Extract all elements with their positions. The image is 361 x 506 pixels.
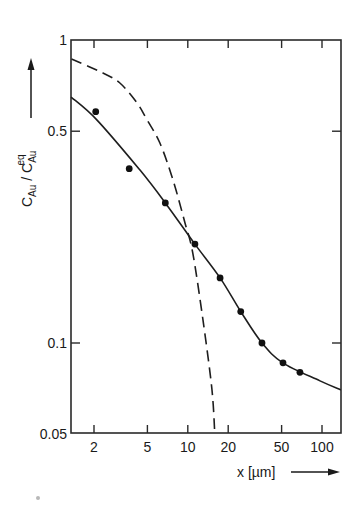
data-point xyxy=(280,359,287,366)
data-point xyxy=(259,340,266,347)
y-tick-label: 0.1 xyxy=(48,335,68,351)
x-tick-label: 10 xyxy=(180,439,196,455)
data-point xyxy=(92,108,99,115)
y-label-sub2: Au xyxy=(27,151,38,163)
x-tick-label: 50 xyxy=(274,439,290,455)
x-tick-label: 20 xyxy=(220,439,236,455)
chart: 25102050100 10.50.10.05 CAu / CAueq x [µ… xyxy=(0,0,361,506)
y-tick-label: 0.5 xyxy=(48,123,68,139)
x-tick-label: 5 xyxy=(144,439,152,455)
y-label-sub1: Au xyxy=(27,185,38,197)
data-point xyxy=(297,369,304,376)
x-tick-label: 2 xyxy=(90,439,98,455)
x-tick-label: 100 xyxy=(310,439,334,455)
data-point xyxy=(237,308,244,315)
x-axis-label: x [µm] xyxy=(237,464,275,480)
data-point xyxy=(126,165,133,172)
y-label-c1: C xyxy=(19,197,35,207)
data-point xyxy=(192,241,199,248)
y-axis-label: CAu / CAueq xyxy=(15,151,38,207)
data-point xyxy=(162,199,169,206)
y-label-sup2: eq xyxy=(15,154,26,165)
data-point xyxy=(217,275,224,282)
y-tick-label: 0.05 xyxy=(40,426,67,442)
scan-smudge xyxy=(36,496,40,500)
y-tick-label: 1 xyxy=(59,32,67,48)
y-label-slash: / xyxy=(19,173,35,185)
